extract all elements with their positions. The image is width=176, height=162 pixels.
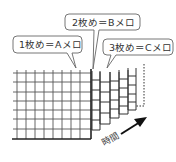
sheet-5 — [115, 68, 136, 110]
time-arrow-icon — [121, 117, 147, 134]
callout-1-label: 1枚め＝Aメロ — [19, 39, 82, 50]
callout-2-label: 2枚め＝Bメロ — [72, 17, 135, 28]
callout-3-label: 3枚め＝Cメロ — [109, 42, 172, 53]
time-label: 時間 — [100, 130, 121, 148]
sheet-2 — [100, 72, 110, 124]
sheet-dotted — [136, 64, 144, 106]
front-sheet-grid — [12, 69, 91, 139]
sheet-1b — [92, 71, 100, 130]
sheet-stack-diagram: 1枚め＝Aメロ 2枚め＝Bメロ 3枚め＝Cメロ 時間 — [0, 0, 176, 162]
